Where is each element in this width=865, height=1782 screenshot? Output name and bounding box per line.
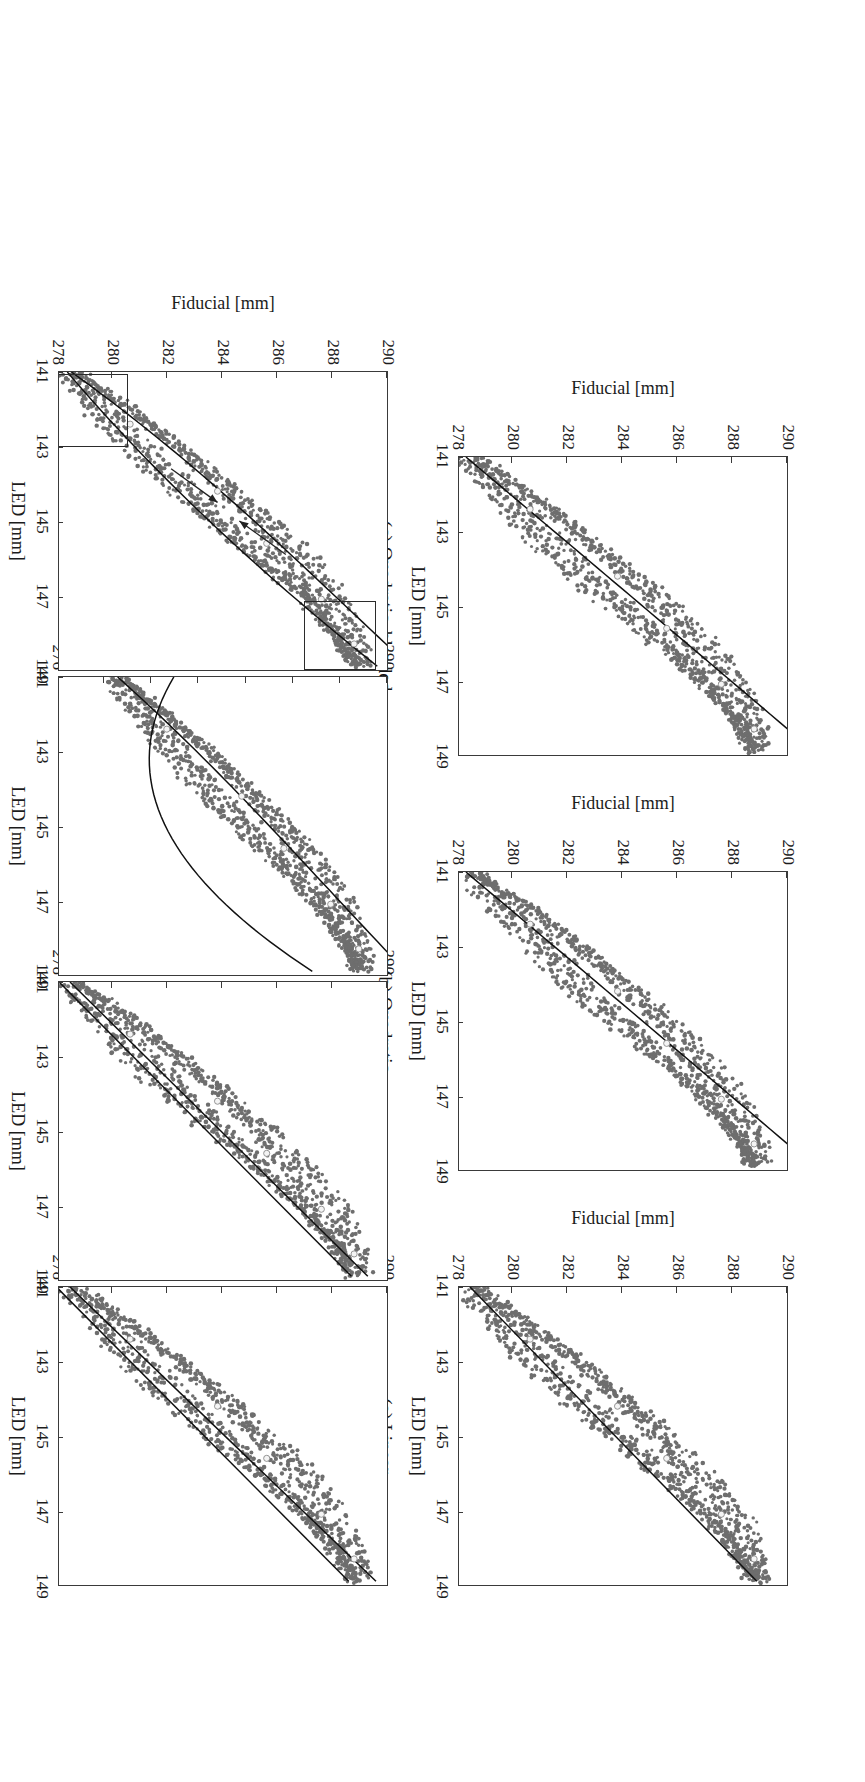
x-tick-label: 145 <box>434 1008 451 1034</box>
x-tick-mark <box>58 372 63 373</box>
x-tick-mark <box>58 1437 63 1438</box>
data-point-cloud <box>459 872 773 1168</box>
y-axis-title: Fiducial [mm] <box>171 293 274 314</box>
y-tick-mark <box>511 872 512 878</box>
y-tick-label: 290 <box>779 829 796 865</box>
x-tick-label: 149 <box>434 743 451 769</box>
x-tick-label: 143 <box>434 1348 451 1374</box>
y-tick-mark <box>786 1287 787 1293</box>
y-axis-title: Fiducial [mm] <box>571 1208 674 1229</box>
y-tick-mark <box>676 457 677 463</box>
y-tick-label: 288 <box>324 329 341 365</box>
data-point-cloud <box>105 677 375 974</box>
x-tick-label: 149 <box>434 1158 451 1184</box>
y-tick-mark <box>676 872 677 878</box>
y-tick-label: 288 <box>724 1244 741 1280</box>
y-tick-mark <box>331 1287 332 1293</box>
y-tick-mark <box>221 1287 222 1293</box>
x-tick-label: 147 <box>434 668 451 694</box>
x-tick-label: 147 <box>34 1498 51 1524</box>
x-tick-mark <box>58 1132 63 1133</box>
plot-area-b <box>458 871 788 1171</box>
y-tick-mark <box>566 872 567 878</box>
y-tick-mark <box>566 1287 567 1293</box>
x-tick-label: 143 <box>34 1043 51 1069</box>
y-tick-mark <box>386 1287 387 1293</box>
y-tick-label: 278 <box>449 414 466 450</box>
y-tick-label: 280 <box>504 1244 521 1280</box>
x-axis-title: LED [mm] <box>7 481 28 560</box>
y-tick-mark <box>221 372 222 378</box>
y-tick-mark <box>166 1287 167 1293</box>
y-tick-mark <box>166 372 167 378</box>
x-tick-label: 149 <box>434 1573 451 1599</box>
x-tick-label: 145 <box>434 1423 451 1449</box>
x-tick-mark <box>458 682 463 683</box>
y-tick-mark <box>511 1287 512 1293</box>
y-tick-mark <box>331 372 332 378</box>
data-point-cloud <box>59 1287 373 1585</box>
y-tick-mark <box>731 457 732 463</box>
y-tick-mark <box>331 982 332 988</box>
x-tick-mark <box>58 1512 63 1513</box>
y-tick-mark <box>386 372 387 378</box>
y-axis-title: Fiducial [mm] <box>571 378 674 399</box>
y-axis-title: Fiducial [mm] <box>571 793 674 814</box>
y-tick-mark <box>386 982 387 988</box>
y-tick-label: 282 <box>159 329 176 365</box>
scan-header <box>230 8 650 34</box>
plot-canvas-a <box>459 1287 787 1585</box>
y-tick-mark <box>621 872 622 878</box>
fit-line-branch-lower <box>59 1287 349 1581</box>
y-tick-label: 282 <box>559 829 576 865</box>
y-tick-mark <box>197 677 198 683</box>
y-tick-label: 278 <box>49 329 66 365</box>
x-tick-mark <box>58 522 63 523</box>
x-tick-mark <box>58 827 63 828</box>
y-tick-mark <box>511 457 512 463</box>
x-tick-label: 143 <box>34 738 51 764</box>
x-axis-title: LED [mm] <box>407 1396 428 1475</box>
y-tick-label: 280 <box>504 829 521 865</box>
x-tick-label: 145 <box>34 813 51 839</box>
x-tick-label: 147 <box>34 1193 51 1219</box>
x-tick-mark <box>458 1362 463 1363</box>
x-tick-label: 147 <box>434 1083 451 1109</box>
x-tick-label: 149 <box>34 1268 51 1294</box>
y-tick-mark <box>276 372 277 378</box>
y-tick-label: 290 <box>379 329 396 365</box>
plot-area-c <box>458 456 788 756</box>
fit-line-branch-lower <box>59 982 351 1276</box>
y-tick-label: 278 <box>449 829 466 865</box>
x-tick-mark <box>58 902 63 903</box>
y-tick-mark <box>103 677 104 683</box>
x-tick-mark <box>458 1512 463 1513</box>
x-axis-title: LED [mm] <box>407 981 428 1060</box>
y-tick-label: 290 <box>779 1244 796 1280</box>
data-point-cloud <box>59 982 375 1280</box>
y-tick-mark <box>111 372 112 378</box>
y-tick-label: 280 <box>104 329 121 365</box>
y-tick-mark <box>166 982 167 988</box>
x-tick-mark <box>458 872 463 873</box>
y-tick-label: 282 <box>559 414 576 450</box>
x-tick-mark <box>458 1022 463 1023</box>
x-axis-title: LED [mm] <box>407 566 428 645</box>
blend-region-upper <box>304 601 376 670</box>
y-tick-label: 286 <box>669 829 686 865</box>
y-tick-mark <box>244 677 245 683</box>
x-tick-mark <box>58 982 63 983</box>
x-tick-mark <box>458 1287 463 1288</box>
y-tick-mark <box>111 1287 112 1293</box>
y-tick-label: 290 <box>779 414 796 450</box>
y-tick-mark <box>276 982 277 988</box>
y-tick-mark <box>221 982 222 988</box>
plot-area-d <box>58 1286 388 1586</box>
x-tick-label: 145 <box>434 593 451 619</box>
y-tick-mark <box>386 677 387 683</box>
x-tick-mark <box>458 607 463 608</box>
y-tick-label: 284 <box>614 1244 631 1280</box>
plot-area-g <box>58 371 388 671</box>
x-tick-label: 143 <box>434 933 451 959</box>
x-tick-mark <box>458 1437 463 1438</box>
